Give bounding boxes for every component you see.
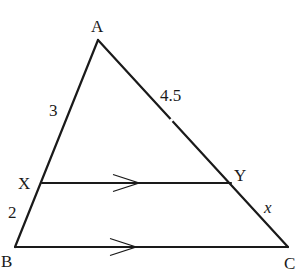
side-ac — [98, 40, 288, 247]
triangle-diagram: A B C X Y 3 2 4.5 x — [0, 0, 298, 274]
length-label-ay: 4.5 — [160, 87, 181, 104]
vertex-label-a: A — [91, 18, 103, 35]
vertex-label-y: Y — [234, 167, 246, 184]
length-label-yc: x — [264, 199, 272, 216]
vertex-label-c: C — [284, 255, 295, 272]
diagram-lines — [0, 0, 298, 274]
vertex-label-b: B — [1, 253, 12, 270]
side-ac-gap — [171, 119, 173, 121]
length-label-ax: 3 — [49, 102, 58, 119]
vertex-label-x: X — [18, 175, 30, 192]
side-ab — [15, 40, 98, 247]
length-label-xb: 2 — [8, 204, 17, 221]
